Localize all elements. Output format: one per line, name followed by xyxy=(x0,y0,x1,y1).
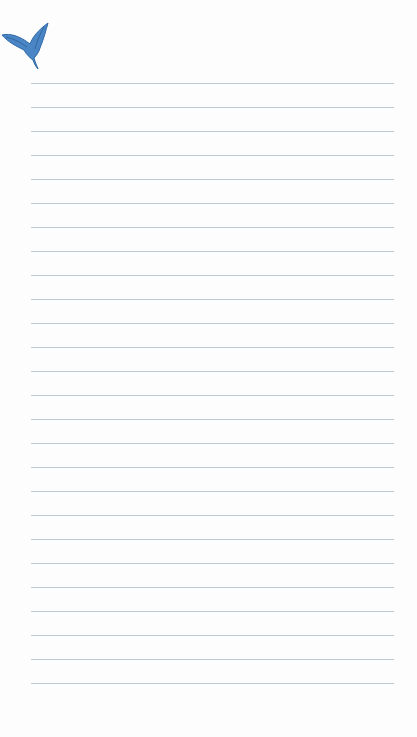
ruled-line xyxy=(31,443,394,444)
ruled-line xyxy=(31,323,394,324)
ruled-line xyxy=(31,467,394,468)
ruled-line xyxy=(31,227,394,228)
ruled-line xyxy=(31,683,394,684)
ruled-line xyxy=(31,539,394,540)
ruled-line xyxy=(31,131,394,132)
ruled-line xyxy=(31,611,394,612)
ruled-lines xyxy=(31,0,394,737)
ruled-line xyxy=(31,107,394,108)
ruled-line xyxy=(31,515,394,516)
ruled-line xyxy=(31,83,394,84)
ruled-line xyxy=(31,395,394,396)
ruled-line xyxy=(31,491,394,492)
ruled-line xyxy=(31,347,394,348)
ruled-line xyxy=(31,179,394,180)
ruled-line xyxy=(31,155,394,156)
ruled-line xyxy=(31,299,394,300)
ruled-line xyxy=(31,635,394,636)
ruled-line xyxy=(31,419,394,420)
ruled-line xyxy=(31,203,394,204)
ruled-line xyxy=(31,563,394,564)
ruled-line xyxy=(31,659,394,660)
ruled-line xyxy=(31,587,394,588)
ruled-line xyxy=(31,275,394,276)
ruled-line xyxy=(31,251,394,252)
ruled-line xyxy=(31,371,394,372)
